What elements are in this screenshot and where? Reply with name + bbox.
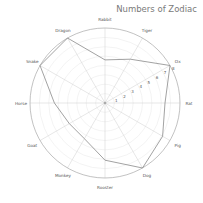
radial-tick-4: 4 (139, 84, 142, 89)
category-label-horse: Horse (15, 101, 28, 106)
radial-tick-5: 5 (148, 80, 151, 85)
radial-tick-1: 1 (115, 98, 118, 103)
spoke-dragon (68, 38, 106, 103)
category-label-monkey: Monkey (55, 173, 72, 178)
category-label-ox: Ox (175, 59, 181, 64)
category-label-snake: Snake (26, 59, 39, 64)
radial-tick-3: 3 (131, 89, 134, 94)
category-label-dog: Dog (143, 173, 152, 178)
radial-tick-6: 6 (156, 75, 159, 80)
category-label-dragon: Dragon (55, 28, 71, 33)
center-marker (104, 102, 107, 105)
spoke-monkey (68, 103, 106, 168)
category-label-rooster: Rooster (97, 185, 113, 190)
category-label-rat: Rat (185, 101, 192, 106)
category-label-pig: Pig (175, 143, 182, 148)
spoke-pig (105, 103, 170, 141)
category-label-rabbit: Rabbit (98, 17, 112, 22)
radar-chart: 12345678 RatOxTigerRabbitDragonSnakeHors… (0, 0, 203, 203)
spoke-goat (40, 103, 105, 141)
radial-tick-7: 7 (164, 70, 167, 75)
radial-tick-2: 2 (123, 94, 126, 99)
spoke-snake (40, 66, 105, 104)
category-label-goat: Goat (27, 143, 37, 148)
spoke-dog (105, 103, 143, 168)
category-label-tiger: Tiger (141, 28, 153, 33)
radial-tick-8: 8 (172, 66, 175, 71)
